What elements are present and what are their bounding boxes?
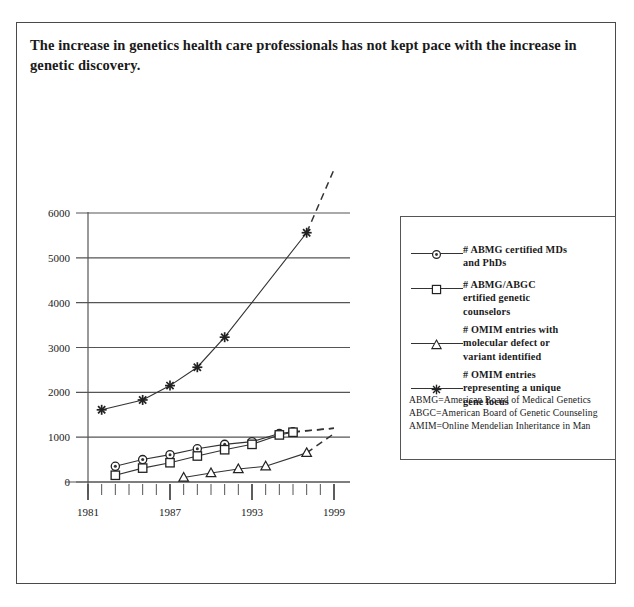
legend-symbol-square-icon <box>411 282 463 296</box>
legend-item-0[interactable]: # ABMG certified MDs and PhDs <box>411 243 611 270</box>
page-title: The increase in genetics health care pro… <box>30 36 590 75</box>
legend-footnotes: ABMG=American Board of Medical Genetics … <box>409 393 598 432</box>
legend-symbol-circle-icon <box>411 247 463 261</box>
chart-legend: # ABMG certified MDs and PhDs # ABMG/ABG… <box>400 216 616 460</box>
legend-label-2: # OMIM entries with molecular defect or … <box>463 323 558 363</box>
legend-label-1: # ABMG/ABGC ertified genetic counselors <box>463 278 536 318</box>
chart-page: The increase in genetics health care pro… <box>0 0 634 607</box>
legend-item-1[interactable]: # ABMG/ABGC ertified genetic counselors <box>411 278 611 318</box>
legend-item-2[interactable]: # OMIM entries with molecular defect or … <box>411 323 611 363</box>
legend-symbol-triangle-icon <box>411 337 463 351</box>
legend-label-0: # ABMG certified MDs and PhDs <box>463 243 567 270</box>
